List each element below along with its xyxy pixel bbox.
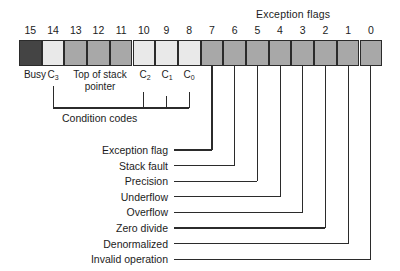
fpu-status-word-diagram: Exception flags 1514131211109876543210 B… bbox=[0, 0, 400, 271]
callout-label-bit6: Stack fault bbox=[119, 160, 168, 172]
callout-label-bit4: Underflow bbox=[121, 191, 168, 203]
callout-label-bit0: Invalid operation bbox=[91, 253, 168, 265]
callout-label-bit1: Denormalized bbox=[103, 238, 168, 250]
callout-label-bit3: Overflow bbox=[127, 206, 168, 218]
callout-leader-lines bbox=[0, 0, 400, 271]
callout-label-bit2: Zero divide bbox=[116, 222, 168, 234]
callout-label-bit5: Precision bbox=[125, 175, 168, 187]
callout-label-bit7: Exception flag bbox=[102, 144, 168, 156]
